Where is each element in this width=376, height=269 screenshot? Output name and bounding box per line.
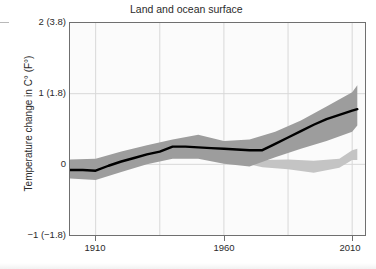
x-tick-label-1960: 1960 — [194, 243, 254, 253]
chart-title: Land and ocean surface — [130, 3, 350, 15]
y-tick-label-2: 2 (3.8) — [4, 17, 66, 27]
x-tick-label-1910: 1910 — [65, 243, 125, 253]
plot-area — [69, 22, 366, 236]
x-tick-label-2010: 2010 — [320, 243, 376, 253]
y-tick-label-1: 1 (1.8) — [4, 88, 66, 98]
y-axis-tick-labels: 2 (3.8) 1 (1.8) 0 −1 (−1.8) — [0, 0, 66, 269]
x-axis-tick-marks — [0, 236, 376, 244]
x-axis-tick-labels: 1910 1960 2010 — [0, 243, 376, 261]
y-tick-label-0: 0 — [4, 159, 66, 169]
chart-figure: Land and ocean surface Temperature chang… — [0, 0, 376, 269]
plot-svg — [70, 23, 365, 235]
